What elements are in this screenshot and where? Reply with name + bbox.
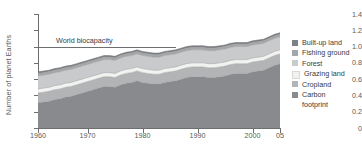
chart-legend: Built-up landFishing groundForestGrazing… (292, 38, 362, 110)
world-biocapacity-label: World biocapacity (56, 36, 113, 45)
legend-item-carbon[interactable]: Carbon (292, 90, 362, 100)
legend-item-label-continued: footprint (302, 100, 362, 110)
world-biocapacity-line (38, 47, 176, 48)
y-axis-title: Number of planet Earths (2, 10, 16, 140)
x-tick-label: 05 (260, 132, 300, 140)
legend-item-label: Fishing ground (302, 48, 350, 58)
legend-swatch-icon (292, 92, 298, 98)
legend-item-built-up-land[interactable]: Built-up land (292, 38, 362, 48)
legend-item-label: Cropland (302, 80, 331, 90)
x-tick-label: 1970 (68, 132, 108, 140)
x-tick-label: 1980 (123, 132, 163, 140)
legend-item-label: Grazing land (304, 69, 345, 79)
legend-swatch-icon (292, 81, 298, 87)
y-tick-label: 0 (332, 125, 362, 132)
legend-swatch-icon (292, 40, 298, 46)
y-tick-label: 1.4 (332, 11, 362, 18)
legend-item-label: Forest (302, 59, 322, 69)
legend-item-grazing-land[interactable]: Grazing land (292, 69, 362, 79)
chart-figure: Number of planet Earths 00.20.40.60.81.0… (0, 0, 362, 160)
legend-swatch-icon (292, 50, 298, 56)
plot-area (38, 14, 280, 128)
x-tick-label: 1990 (178, 132, 218, 140)
legend-swatch-icon (292, 71, 300, 79)
x-axis-line (38, 128, 281, 129)
legend-swatch-icon (292, 60, 298, 66)
x-tick-label: 1960 (18, 132, 58, 140)
legend-item-cropland[interactable]: Cropland (292, 80, 362, 90)
legend-item-forest[interactable]: Forest (292, 59, 362, 69)
stacked-area-svg (38, 14, 280, 128)
legend-item-fishing-ground[interactable]: Fishing ground (292, 48, 362, 58)
legend-item-label: Built-up land (302, 38, 342, 48)
y-tick-label: 1.2 (332, 27, 362, 34)
legend-item-label: Carbon (302, 90, 326, 100)
